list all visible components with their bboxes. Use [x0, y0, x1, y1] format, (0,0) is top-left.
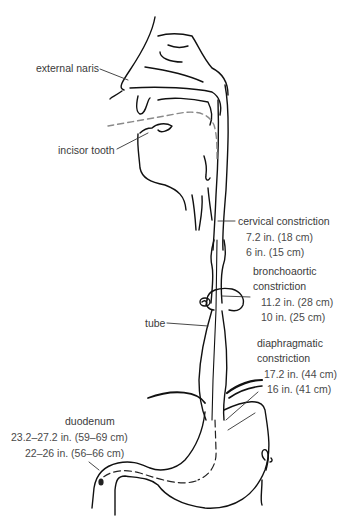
label-diaphragmatic-line1: diaphragmatic: [257, 337, 323, 350]
diaphragmatic-adult-distance: 17.2 in. (44 cm): [264, 368, 337, 381]
tube-entry-dashed: [108, 112, 217, 160]
label-bronchoaortic-line1: bronchoaortic: [253, 265, 317, 278]
diagram-canvas: external naris incisor tooth cervical co…: [0, 0, 346, 520]
label-bronchoaortic-line2: constriction: [253, 280, 306, 293]
leader-lines: [89, 69, 258, 470]
cervical-child-distance: 6 in. (15 cm): [246, 246, 304, 259]
diaphragmatic-child-distance: 16 in. (41 cm): [267, 383, 331, 396]
bronchoaortic-adult-distance: 11.2 in. (28 cm): [261, 296, 333, 309]
label-diaphragmatic-line2: constriction: [257, 352, 310, 365]
head-outline: [110, 17, 228, 250]
label-incisor-tooth: incisor tooth: [58, 144, 115, 157]
label-external-naris: external naris: [36, 62, 99, 75]
label-duodenum: duodenum: [65, 415, 115, 428]
bronchoaortic-child-distance: 10 in. (25 cm): [261, 311, 325, 324]
duodenum-child-distance: 22–26 in. (56–66 cm): [25, 447, 124, 460]
label-cervical-constriction: cervical constriction: [238, 215, 330, 228]
label-tube: tube: [145, 317, 165, 330]
diaphragm: [148, 380, 262, 403]
cervical-adult-distance: 7.2 in. (18 cm): [246, 231, 313, 244]
duodenum-adult-distance: 23.2–27.2 in. (59–69 cm): [11, 431, 128, 444]
